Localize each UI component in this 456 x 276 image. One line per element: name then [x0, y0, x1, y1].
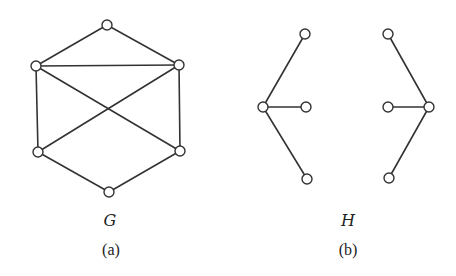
graph-g-edges [36, 25, 180, 192]
panel-b-graph-h: H (b) [258, 29, 434, 259]
edge-top-upper-left [36, 25, 107, 66]
vertex-bottom [104, 187, 114, 197]
vertex-upper-right [174, 60, 184, 70]
vertex-right-bottom [384, 173, 394, 183]
graph-g-name: G [104, 211, 117, 230]
panel-a-caption: (a) [102, 241, 120, 259]
edge-left-center-left-bottom [263, 107, 307, 179]
vertex-top [102, 20, 112, 30]
vertex-right-center [424, 102, 434, 112]
vertex-lower-right [175, 146, 185, 156]
edge-lower-right-bottom [109, 151, 180, 192]
vertex-left-mid [301, 102, 311, 112]
panel-a-graph-g: G (a) [31, 20, 185, 259]
vertex-right-top [383, 29, 393, 39]
vertex-upper-left [31, 61, 41, 71]
panel-b-caption: (b) [339, 241, 358, 259]
graph-h-name: H [340, 211, 356, 230]
vertex-left-center [258, 102, 268, 112]
edge-right-center-right-top [388, 34, 429, 107]
vertex-lower-left [33, 147, 43, 157]
graph-h-edges [263, 34, 429, 179]
edge-upper-left-upper-right [36, 65, 179, 66]
vertex-right-mid [383, 102, 393, 112]
edge-upper-right-lower-left [38, 65, 179, 152]
vertex-left-top [300, 29, 310, 39]
edge-upper-right-lower-right [179, 65, 180, 151]
edge-upper-left-lower-left [36, 66, 38, 152]
graph-figure: G (a) H (b) [0, 0, 456, 276]
vertex-left-bottom [302, 174, 312, 184]
edge-left-center-left-top [263, 34, 305, 107]
edge-top-upper-right [107, 25, 179, 65]
edge-right-center-right-bottom [389, 107, 429, 178]
edge-lower-left-bottom [38, 152, 109, 192]
